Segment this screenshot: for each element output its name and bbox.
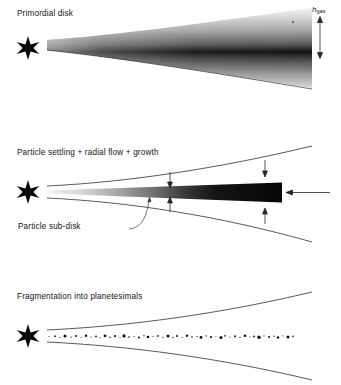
panel-fragmentation: Fragmentation into planetesimals [0, 272, 341, 385]
gas-disk-body [40, 0, 320, 100]
h-gas-subscript: gas [316, 8, 325, 14]
panel-primordial-disk: Primordial disk [0, 0, 341, 132]
panel-particle-settling: Particle settling + radial flow + growth [0, 132, 341, 272]
central-star-icon [17, 324, 39, 348]
settle-arrow-upper-outer [263, 160, 268, 177]
gas-envelope-upper [47, 292, 312, 330]
gas-envelope-lower [47, 342, 312, 380]
gas-envelope-upper [47, 146, 312, 186]
fragmentation-graphic [0, 272, 341, 385]
h-gas-label: hgas [312, 5, 325, 14]
settling-disk-graphic [0, 132, 341, 272]
central-star-icon [17, 180, 39, 204]
h-gas-measure-arrow [317, 17, 322, 59]
particle-sub-disk-body [47, 183, 282, 203]
settle-arrow-lower-mid [168, 197, 173, 212]
radial-flow-arrow [286, 190, 330, 195]
gas-envelope-lower [47, 198, 312, 242]
disk-speck [292, 21, 294, 23]
central-star-icon [17, 36, 39, 60]
planetesimal-layer [49, 334, 294, 339]
particle-sub-disk-label: Particle sub-disk [18, 222, 81, 231]
settle-arrow-upper-mid [168, 172, 173, 188]
disk-evolution-figure: Primordial disk [0, 0, 341, 385]
primordial-disk-graphic [0, 0, 341, 132]
settle-arrow-lower-outer [263, 208, 268, 224]
